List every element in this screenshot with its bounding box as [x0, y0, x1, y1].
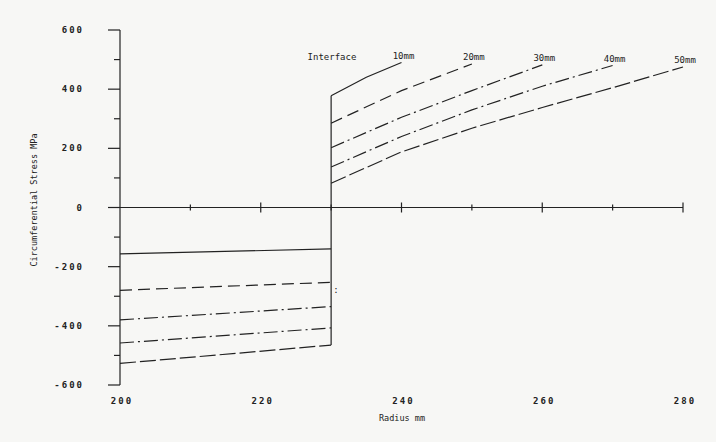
series-50mm-inner: [120, 345, 331, 363]
legend-label-20mm: 20mm: [463, 52, 485, 62]
series-40mm-outer: [331, 66, 612, 168]
y-tick-label: -200: [54, 262, 84, 272]
y-tick-label: -400: [54, 321, 84, 331]
series-10mm-outer: [331, 63, 401, 96]
x-tick-label: 280: [674, 396, 696, 406]
axes: [110, 30, 683, 385]
series-group: [120, 63, 683, 364]
series-20mm-inner: [120, 282, 331, 290]
x-tick-label: 260: [533, 396, 555, 406]
series-40mm-inner: [120, 328, 331, 343]
y-tick-label: 600: [62, 25, 84, 35]
stress-chart: -600-400-2000200400600200220240260280:10…: [0, 0, 716, 442]
y-tick-label: 400: [62, 84, 84, 94]
y-tick-label: 200: [62, 143, 84, 153]
series-30mm-inner: [120, 307, 331, 320]
labels: -600-400-2000200400600200220240260280:10…: [54, 25, 696, 406]
series-20mm-outer: [331, 64, 472, 123]
y-tick-label: -600: [54, 380, 84, 390]
legend-label-10mm: 10mm: [393, 51, 415, 61]
interface-mark: :: [333, 285, 338, 295]
x-tick-label: 240: [392, 396, 414, 406]
x-tick-label: 220: [252, 396, 274, 406]
x-axis-title: Radius mm: [379, 413, 425, 423]
interface-label: Interface: [308, 52, 357, 62]
x-tick-label: 200: [111, 396, 133, 406]
y-tick-label: 0: [77, 203, 84, 213]
series-10mm-inner: [120, 249, 331, 254]
legend-label-30mm: 30mm: [533, 53, 555, 63]
legend-label-40mm: 40mm: [604, 54, 626, 64]
y-axis-title: Circumferential Stress MPa: [29, 133, 39, 266]
legend-label-50mm: 50mm: [674, 55, 696, 65]
